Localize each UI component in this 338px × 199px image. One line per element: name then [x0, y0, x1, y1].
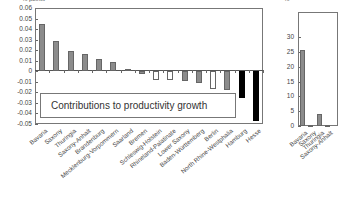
x-tick-mark [249, 70, 250, 73]
y-tick-label: 10 [266, 92, 294, 99]
bar-lower-saxony [182, 71, 188, 80]
bar-saxony [53, 41, 59, 72]
x-tick-mark [106, 70, 107, 73]
y-tick-label: 25 [266, 48, 294, 55]
x-tick-mark [92, 70, 93, 73]
y-tick-mark [35, 124, 38, 125]
x-tick-mark [49, 70, 50, 73]
bar-saarland [125, 69, 131, 71]
x-tick-mark [220, 70, 221, 73]
y-tick-label: 20 [266, 63, 294, 70]
y-tick-label: 30 [266, 33, 294, 40]
bar-north-rhine-westphalia [224, 71, 230, 90]
x-tick-mark [192, 70, 193, 73]
right-y-unit: % [284, 0, 289, 2]
x-tick-mark [178, 70, 179, 73]
chart-legend: Contributions to productivity growth [40, 93, 236, 118]
x-tick-mark [235, 70, 236, 73]
bar-hamburg [239, 71, 245, 97]
bar-bremen [139, 71, 145, 74]
x-tick-mark [78, 70, 79, 73]
y-tick-label: 0 [4, 67, 32, 74]
y-tick-label: -0.03 [4, 99, 32, 106]
bar-saxony-anhalt [325, 125, 330, 127]
y-tick-label: 0.01 [4, 57, 32, 64]
y-tick-label: -0.01 [4, 78, 32, 85]
y-tick-label: 0 [266, 122, 294, 129]
bar-mecklenburg-vorpommern [110, 62, 116, 71]
x-tick-mark [149, 70, 150, 73]
bar-saxony [308, 125, 313, 127]
y-tick-label: 5 [266, 107, 294, 114]
y-tick-label: 0.03 [4, 36, 32, 43]
y-tick-label: 0.05 [4, 15, 32, 22]
x-tick-label: Hesse [244, 127, 262, 144]
bar-rhineland-palatinate [167, 71, 173, 79]
bar-saxony-anhalt [82, 54, 88, 71]
bar-bavaria [300, 50, 305, 126]
bar-hesse [253, 71, 259, 121]
left-y-unit: % points [22, 0, 45, 2]
bar-bavaria [39, 24, 45, 71]
y-tick-label: 0.02 [4, 46, 32, 53]
y-tick-label: 0.06 [4, 4, 32, 11]
y-tick-label: -0.04 [4, 109, 32, 116]
bar-baden-w-rttemberg [196, 71, 202, 83]
bar-berlin [210, 71, 216, 89]
bar-brandenburg [96, 59, 102, 72]
y-tick-mark [298, 126, 301, 127]
x-tick-mark [206, 70, 207, 73]
y-tick-label: 15 [266, 78, 294, 85]
x-tick-mark [64, 70, 65, 73]
bar-schleswig-holstein [153, 71, 159, 79]
bar-thuringia [317, 114, 322, 126]
x-tick-mark [135, 70, 136, 73]
x-tick-mark [263, 70, 264, 73]
y-tick-label: 0.04 [4, 25, 32, 32]
bar-thuringia [68, 51, 74, 71]
x-tick-mark [163, 70, 164, 73]
y-tick-label: -0.05 [4, 120, 32, 127]
y-tick-label: -0.02 [4, 88, 32, 95]
x-tick-mark [121, 70, 122, 73]
